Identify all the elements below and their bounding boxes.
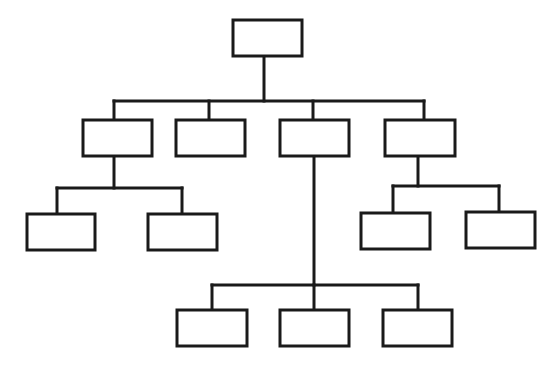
node-box-l1-b (176, 120, 245, 156)
org-chart-diagram (0, 0, 559, 368)
node-box-l1-a (83, 120, 152, 156)
node-box-l3-c2 (280, 310, 349, 346)
node-boxes (27, 20, 535, 346)
node-rect (383, 310, 452, 346)
node-rect (233, 20, 302, 56)
node-rect (176, 120, 245, 156)
node-box-l3-c1 (177, 310, 247, 346)
node-rect (466, 212, 535, 248)
node-rect (27, 214, 95, 250)
node-box-root (233, 20, 302, 56)
connector-lines (57, 56, 499, 310)
node-rect (280, 310, 349, 346)
node-rect (148, 214, 217, 250)
node-rect (280, 120, 349, 156)
node-box-l3-c3 (383, 310, 452, 346)
node-box-l2-a1 (27, 214, 95, 250)
node-rect (177, 310, 247, 346)
node-box-l1-c (280, 120, 349, 156)
node-rect (361, 213, 430, 249)
node-box-l2-d2 (466, 212, 535, 248)
node-rect (83, 120, 152, 156)
node-box-l2-a2 (148, 214, 217, 250)
node-box-l2-d1 (361, 213, 430, 249)
node-rect (385, 120, 455, 156)
node-box-l1-d (385, 120, 455, 156)
